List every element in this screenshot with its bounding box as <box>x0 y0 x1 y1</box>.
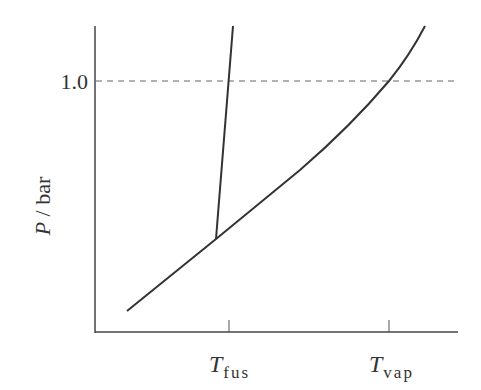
y-tick-label: 1.0 <box>61 69 89 94</box>
y-axis-label: P / bar <box>30 176 55 236</box>
chart-canvas: 1.0 P / bar Tfus Tvap <box>0 0 481 390</box>
phase-diagram: 1.0 P / bar Tfus Tvap <box>0 0 481 390</box>
t-vap-label: Tvap <box>369 351 414 382</box>
t-fus-label: Tfus <box>209 351 250 382</box>
vapor-boundary-curve <box>127 26 425 311</box>
fusion-line <box>216 26 233 239</box>
